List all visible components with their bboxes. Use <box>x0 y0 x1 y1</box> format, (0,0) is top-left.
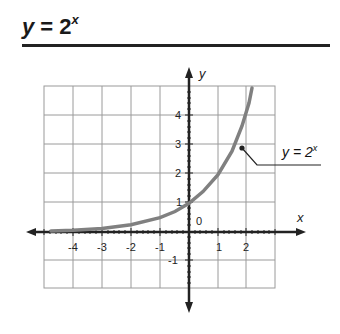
y-tick-label: -1 <box>168 254 178 266</box>
x-tick-label: 1 <box>216 241 222 253</box>
origin-label: 0 <box>196 215 202 227</box>
x-tick-label: -1 <box>155 241 165 253</box>
y-tick-label: 1 <box>176 196 182 208</box>
graph: -4 -3 -2 -1 1 2 4 3 2 1 -1 0 x y y = 2x <box>0 0 340 334</box>
x-axis-left-arrow-icon <box>26 228 36 236</box>
y-tick-label: 4 <box>175 109 181 121</box>
callout-label: y = 2x <box>281 143 318 160</box>
x-axis-right-arrow-icon <box>296 228 306 236</box>
x-tick-label: -4 <box>68 241 78 253</box>
y-tick-label: 3 <box>175 138 181 150</box>
x-axis-label: x <box>296 210 304 225</box>
x-tick-label: -3 <box>97 241 107 253</box>
callout-text: y = 2 <box>281 144 313 160</box>
y-axis-up-arrow-icon <box>185 67 193 78</box>
y-axis-label: y <box>198 66 207 81</box>
y-axis-down-arrow-icon <box>185 302 193 313</box>
exponential-curve <box>51 88 252 231</box>
x-tick-label: -2 <box>126 241 136 253</box>
y-tick-labels: 4 3 2 1 -1 <box>168 109 182 266</box>
x-tick-labels: -4 -3 -2 -1 1 2 <box>68 241 249 253</box>
grid <box>44 86 275 288</box>
y-tick-label: 2 <box>175 167 181 179</box>
x-tick-label: 2 <box>243 241 249 253</box>
callout-exponent: x <box>312 143 318 153</box>
axes <box>26 67 306 313</box>
